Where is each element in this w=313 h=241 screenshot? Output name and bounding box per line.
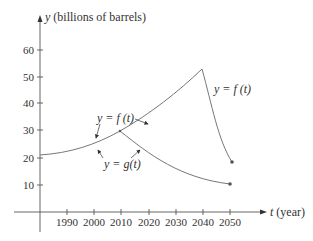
svg-text:10: 10 <box>23 179 35 191</box>
annotation-g-arrow-1 <box>98 150 103 158</box>
y-axis-label: y (billions of barrels) <box>44 10 146 24</box>
svg-text:40: 40 <box>23 97 35 109</box>
chart: y (billions of barrels) t (year) 60 50 4… <box>0 0 313 241</box>
svg-text:2010: 2010 <box>110 216 133 228</box>
svg-text:20: 20 <box>23 152 35 164</box>
x-tick-labels: 1990 2000 2010 2020 2030 2040 2050 <box>56 216 242 228</box>
svg-text:2050: 2050 <box>219 216 242 228</box>
annotation-g-label: y = g(t) <box>103 157 141 171</box>
y-tick-labels: 60 50 40 30 20 10 <box>23 44 35 191</box>
x-axis-label: t (year) <box>270 205 305 219</box>
annotation-f-label-1: y = f (t) <box>96 111 134 125</box>
svg-text:2000: 2000 <box>83 216 106 228</box>
svg-text:2030: 2030 <box>165 216 188 228</box>
svg-text:60: 60 <box>23 44 35 56</box>
svg-text:2040: 2040 <box>192 216 215 228</box>
svg-text:2020: 2020 <box>138 216 161 228</box>
branch-point <box>119 130 121 132</box>
annotation-f-arrow-1 <box>135 119 148 124</box>
svg-text:1990: 1990 <box>56 216 79 228</box>
x-axis-arrow-icon <box>260 210 267 215</box>
series-f-endpoint <box>230 160 234 164</box>
series-g-endpoint <box>228 182 232 186</box>
annotation-f-label-2: y = f (t) <box>213 82 251 96</box>
y-axis-arrow-icon <box>38 15 43 22</box>
svg-text:50: 50 <box>23 71 35 83</box>
annotation-f-arrow-2 <box>96 124 100 138</box>
series-f-curve <box>40 69 232 162</box>
svg-text:30: 30 <box>23 124 35 136</box>
